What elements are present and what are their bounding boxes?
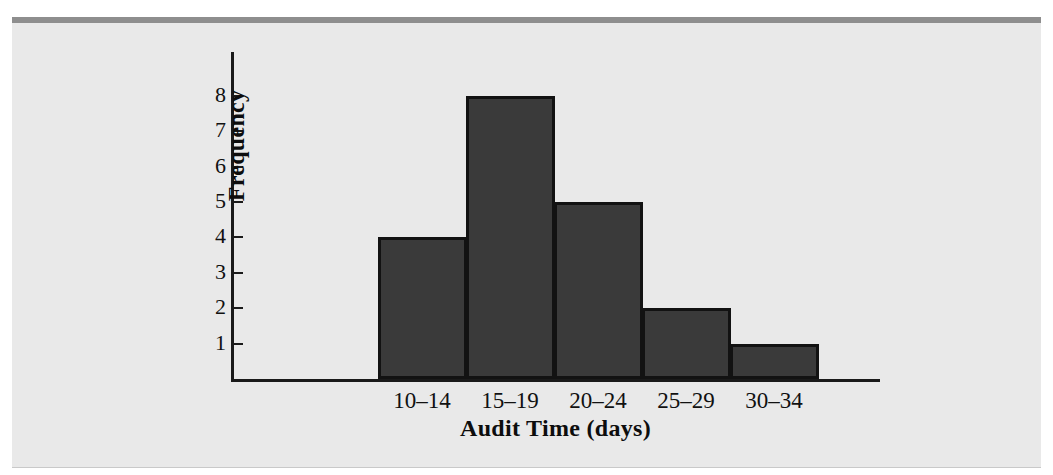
x-axis-category-label: 10–14 — [378, 388, 466, 413]
x-axis-category-label: 25–29 — [642, 388, 730, 413]
histogram-figure: 12345678 10–1415–1920–2425–2930–34 Audit… — [0, 0, 1053, 475]
x-axis-line — [231, 379, 880, 382]
y-axis-tick-label: 2 — [204, 296, 226, 318]
x-axis-title: Audit Time (days) — [231, 415, 880, 442]
bar — [466, 96, 555, 379]
y-axis-tick — [234, 272, 243, 274]
x-axis-category-label: 15–19 — [466, 388, 554, 413]
bar — [554, 202, 643, 379]
x-axis-category-label: 20–24 — [554, 388, 642, 413]
y-axis-tick-label: 1 — [204, 332, 226, 354]
bar — [730, 344, 819, 379]
y-axis-tick-label: 3 — [204, 261, 226, 283]
y-axis-tick — [234, 307, 243, 309]
y-axis-tick — [234, 236, 243, 238]
y-axis-title: Frequency — [223, 56, 250, 236]
bar — [642, 308, 731, 379]
x-axis-category-label: 30–34 — [730, 388, 818, 413]
plot-area: 12345678 10–1415–1920–2425–2930–34 Audit… — [0, 0, 1053, 475]
bar — [378, 237, 467, 379]
y-axis-tick — [234, 343, 243, 345]
